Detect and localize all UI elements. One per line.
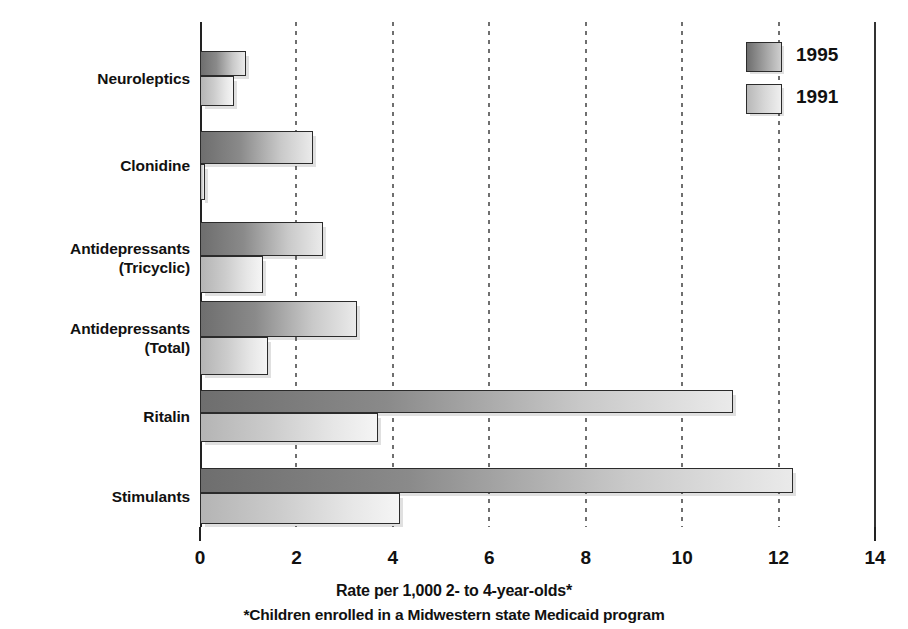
bar-1991-clonidine <box>200 164 205 200</box>
bar-1991-stimulants <box>200 493 400 524</box>
legend-label-1995: 1995 <box>796 44 838 66</box>
x-tick-mark-8 <box>585 527 587 541</box>
category-label-antidepressants-total: Antidepressants (Total) <box>70 319 190 357</box>
gridline-6 <box>488 22 490 527</box>
bar-1995-clonidine <box>200 131 313 164</box>
bar-1995-antidepressants-tricyclic <box>200 222 323 256</box>
bar-1995-antidepressants-total <box>200 301 357 337</box>
x-tick-0: 0 <box>170 547 230 569</box>
x-tick-mark-6 <box>488 527 490 541</box>
chart-footnote: *Children enrolled in a Midwestern state… <box>0 606 908 624</box>
x-tick-mark-14 <box>874 527 876 541</box>
x-tick-6: 6 <box>459 547 519 569</box>
category-label-antidepressants-tricyclic: Antidepressants (Tricyclic) <box>70 239 190 277</box>
gridline-2 <box>295 22 297 527</box>
bar-1995-ritalin <box>200 390 733 413</box>
gridline-10 <box>681 22 683 527</box>
x-tick-mark-4 <box>392 527 394 541</box>
bar-1991-neuroleptics <box>200 76 234 106</box>
legend-swatch-1991 <box>746 84 782 114</box>
category-label-clonidine: Clonidine <box>120 156 190 175</box>
category-label-stimulants: Stimulants <box>112 487 190 506</box>
legend-swatch-1995 <box>746 42 782 72</box>
category-label-ritalin: Ritalin <box>143 407 190 426</box>
x-tick-12: 12 <box>749 547 809 569</box>
gridline-8 <box>585 22 587 527</box>
bar-1991-ritalin <box>200 413 378 442</box>
x-tick-mark-12 <box>778 527 780 541</box>
bar-1991-antidepressants-total <box>200 337 268 375</box>
bar-1995-neuroleptics <box>200 51 246 76</box>
x-tick-14: 14 <box>845 547 905 569</box>
bar-1991-antidepressants-tricyclic <box>200 256 263 293</box>
x-tick-8: 8 <box>556 547 616 569</box>
x-tick-10: 10 <box>652 547 712 569</box>
x-tick-mark-2 <box>295 527 297 541</box>
bar-chart: NeurolepticsClonidineAntidepressants (Tr… <box>0 0 908 629</box>
legend-label-1991: 1991 <box>796 86 838 108</box>
bar-1995-stimulants <box>200 468 793 493</box>
x-axis-title: Rate per 1,000 2- to 4-year-olds* <box>0 582 908 600</box>
x-tick-2: 2 <box>266 547 326 569</box>
x-tick-4: 4 <box>363 547 423 569</box>
category-label-neuroleptics: Neuroleptics <box>97 69 190 88</box>
x-tick-mark-10 <box>681 527 683 541</box>
gridline-4 <box>392 22 394 527</box>
gridline-14 <box>874 22 876 527</box>
x-tick-mark-0 <box>199 527 201 541</box>
